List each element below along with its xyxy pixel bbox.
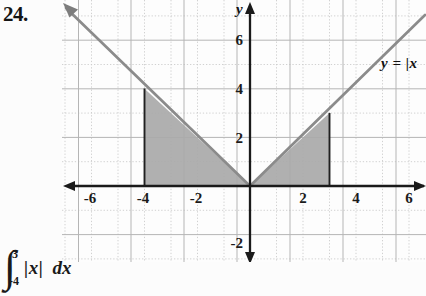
- x-tick-label-neg2: -2: [190, 190, 203, 207]
- graph-svg: [62, 0, 426, 262]
- integral-expression: ∫ 3 -4 |x| dx: [4, 244, 71, 292]
- y-tick-label-pos2: 2: [225, 130, 243, 147]
- x-tick-label-pos2: 2: [299, 190, 307, 207]
- problem-number: 24.: [3, 2, 28, 27]
- integrand: |x|: [24, 257, 43, 279]
- integral-sign: ∫: [4, 248, 16, 286]
- x-tick-label-pos4: 4: [352, 190, 360, 207]
- y-tick-label-pos4: 4: [225, 81, 243, 98]
- graph-plot: [62, 0, 426, 262]
- worksheet-page: 24.: [0, 0, 426, 296]
- y-axis-name-label: y: [236, 1, 243, 18]
- x-tick-label-neg4: -4: [137, 190, 150, 207]
- x-tick-label-pos6: 6: [405, 190, 413, 207]
- differential: dx: [52, 257, 71, 279]
- curve-equation-label: y = |x: [381, 55, 418, 72]
- x-tick-label-neg6: -6: [84, 190, 97, 207]
- y-tick-label-pos6: 6: [225, 32, 243, 49]
- plot-background: [62, 0, 426, 262]
- y-tick-label-neg2: -2: [217, 235, 243, 252]
